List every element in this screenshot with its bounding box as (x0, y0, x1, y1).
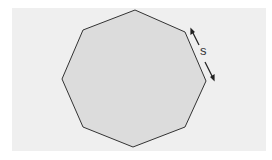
octagon-diagram (0, 0, 272, 160)
side-length-label: s (200, 43, 207, 58)
octagon (62, 10, 206, 147)
